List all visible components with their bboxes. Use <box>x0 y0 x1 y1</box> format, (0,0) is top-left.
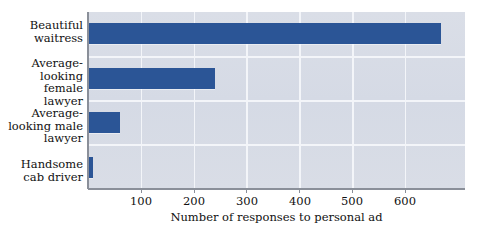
band-separator-1 <box>88 56 465 58</box>
category-label-1: Average- looking female lawyer <box>0 57 83 107</box>
bar-average-looking-male-lawyer <box>88 112 120 133</box>
x-tick-100 <box>141 188 142 193</box>
bar-handsome-cab-driver <box>88 157 93 178</box>
x-axis-line <box>88 188 465 190</box>
category-label-3: Handsome cab driver <box>0 158 83 183</box>
x-tick-label-200: 200 <box>183 194 205 208</box>
x-tick-label-600: 600 <box>394 194 416 208</box>
x-tick-label-400: 400 <box>289 194 311 208</box>
x-tick-200 <box>194 188 195 193</box>
plot-area <box>88 12 465 188</box>
x-tick-300 <box>246 188 247 193</box>
category-axis-labels: Beautiful waitress Average- looking fema… <box>0 12 86 188</box>
x-tick-400 <box>299 188 300 193</box>
band-separator-3 <box>88 144 465 146</box>
category-label-2: Average- looking male lawyer <box>0 107 83 145</box>
bar-beautiful-waitress <box>88 23 441 44</box>
x-axis-title: Number of responses to personal ad <box>88 210 465 224</box>
y-axis-line <box>87 12 89 189</box>
bar-chart: Beautiful waitress Average- looking fema… <box>0 0 482 231</box>
x-tick-label-500: 500 <box>341 194 363 208</box>
x-tick-600 <box>405 188 406 193</box>
x-tick-500 <box>352 188 353 193</box>
category-label-0: Beautiful waitress <box>0 19 83 44</box>
x-tick-label-100: 100 <box>130 194 152 208</box>
x-tick-label-300: 300 <box>236 194 258 208</box>
band-separator-2 <box>88 100 465 102</box>
bar-average-looking-female-lawyer <box>88 68 215 89</box>
